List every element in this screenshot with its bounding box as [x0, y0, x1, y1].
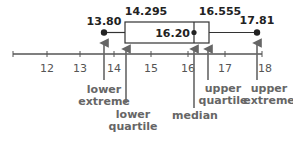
tick-label-14: 14 [107, 62, 121, 75]
upper-quartile-caption-line2: quartile [199, 94, 248, 107]
upper-extreme-caption-line2: extreme [243, 94, 293, 107]
lower-quartile-value: 14.295 [125, 5, 167, 18]
tick-label-12: 12 [40, 62, 54, 75]
median-point [191, 30, 196, 35]
tick-label-15: 15 [144, 62, 158, 75]
captions: lower extreme lower quartile median uppe… [78, 82, 293, 133]
tick-label-16: 16 [181, 62, 195, 75]
tick-label-18: 18 [258, 62, 272, 75]
lower-quartile-caption-line2: quartile [109, 120, 158, 133]
lower-extreme-point [101, 29, 107, 35]
median-value: 16.20 [155, 27, 190, 40]
axis-tick-labels: 12 13 14 15 16 17 18 [40, 62, 272, 75]
tick-label-13: 13 [73, 62, 87, 75]
lower-extreme-caption-line2: extreme [78, 95, 130, 108]
upper-quartile-value: 16.555 [199, 5, 241, 18]
upper-extreme-value: 17.81 [240, 14, 275, 27]
number-line: 12 13 14 15 16 17 18 [13, 51, 272, 75]
box-plot-diagram: 12 13 14 15 16 17 18 13.80 14.295 16.20 … [0, 0, 293, 142]
lower-extreme-value: 13.80 [87, 15, 122, 28]
tick-label-17: 17 [218, 62, 232, 75]
median-caption: median [172, 109, 218, 122]
upper-extreme-point [254, 29, 260, 35]
